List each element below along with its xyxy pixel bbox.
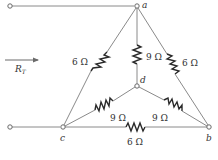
- resistor-bd: [139, 87, 207, 126]
- node-c: [61, 125, 65, 129]
- resistor-ad-label: 9 Ω: [146, 52, 162, 62]
- resistor-ad: [133, 8, 141, 84]
- rt-arrow-icon: [5, 58, 39, 63]
- resistor-ac-label: 6 Ω: [72, 57, 88, 67]
- node-b: [207, 125, 211, 129]
- input-terminal-top: [8, 4, 12, 8]
- resistor-cd-label: 9 Ω: [110, 113, 126, 123]
- node-b-label: b: [206, 133, 212, 143]
- resistor-bd-label: 9 Ω: [152, 113, 168, 123]
- input-terminal-bottom: [8, 125, 12, 129]
- node-c-label: c: [60, 133, 65, 143]
- rt-label: RT: [14, 64, 27, 75]
- circuit-diagram: RT 6 Ω 6 Ω 9 Ω 9 Ω 9 Ω 6 Ω: [0, 0, 218, 160]
- resistor-cb-label: 6 Ω: [127, 137, 143, 147]
- resistor-ab-label: 6 Ω: [182, 58, 198, 68]
- node-d-label: d: [140, 75, 146, 85]
- node-a-label: a: [142, 0, 147, 10]
- node-d: [135, 84, 139, 88]
- node-a: [135, 4, 139, 8]
- resistor-cb: [65, 123, 207, 131]
